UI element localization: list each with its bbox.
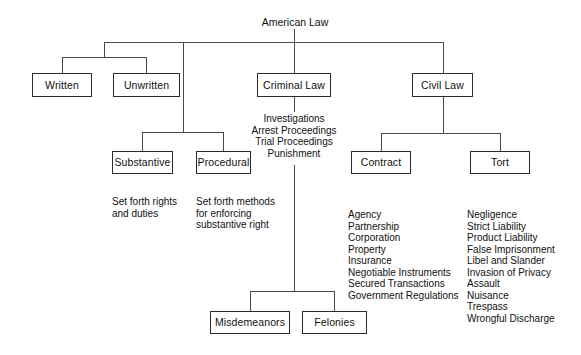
node-felonies[interactable]: Felonies — [302, 311, 367, 334]
substantive-description: Set forth rights and duties — [112, 196, 192, 219]
org-chart-diagram: American Law Written Unwritten Criminal … — [0, 0, 581, 355]
tort-list-item: Wrongful Discharge — [467, 313, 555, 325]
connector-written-group-bus — [62, 57, 147, 58]
node-misdemeanors[interactable]: Misdemeanors — [210, 311, 290, 334]
node-written[interactable]: Written — [32, 73, 92, 97]
connector-to-felonies — [334, 291, 335, 311]
contract-list-item: Corporation — [348, 232, 459, 244]
tort-subtopics-list: NegligenceStrict LiabilityProduct Liabil… — [467, 209, 555, 324]
tort-list-item: Assault — [467, 278, 555, 290]
node-unwritten[interactable]: Unwritten — [113, 73, 180, 97]
connector-to-tort — [500, 133, 501, 151]
node-civil-law[interactable]: Civil Law — [412, 73, 473, 97]
root-node-american-law: American Law — [245, 16, 345, 28]
tort-list-item: Product Liability — [467, 232, 555, 244]
contract-list-item: Partnership — [348, 221, 459, 233]
connector-bus-to-civil-law — [443, 42, 444, 73]
connector-root-stem — [294, 29, 295, 43]
connector-to-written — [62, 57, 63, 73]
connector-bus-to-written-group — [104, 42, 105, 57]
node-criminal-law[interactable]: Criminal Law — [257, 73, 331, 97]
contract-list-item: Property — [348, 244, 459, 256]
tort-list-item: Trespass — [467, 301, 555, 313]
tort-list-item: Libel and Slander — [467, 255, 555, 267]
connector-to-misdemeanors — [250, 291, 251, 311]
contract-list-item: Negotiable Instruments — [348, 267, 459, 279]
tort-list-item: Negligence — [467, 209, 555, 221]
connector-to-unwritten — [146, 57, 147, 73]
contract-list-item: Insurance — [348, 255, 459, 267]
contract-list-item: Secured Transactions — [348, 278, 459, 290]
connector-criminal-law-to-offenses — [294, 165, 295, 291]
tort-list-item: Nuisance — [467, 290, 555, 302]
connector-offenses-bus — [250, 291, 335, 292]
connector-to-contract — [381, 133, 382, 151]
tort-list-item: Invasion of Privacy — [467, 267, 555, 279]
tort-list-item: False Imprisonment — [467, 244, 555, 256]
connector-civil-law-stem — [443, 97, 444, 133]
tort-list-item: Strict Liability — [467, 221, 555, 233]
contract-subtopics-list: AgencyPartnershipCorporationPropertyInsu… — [348, 209, 459, 301]
criminal-process-steps: Investigations Arrest Proceedings Trial … — [224, 113, 364, 159]
node-tort[interactable]: Tort — [470, 151, 530, 174]
connector-to-substantive — [142, 132, 143, 151]
procedural-description: Set forth methods for enforcing substant… — [196, 196, 282, 231]
connector-contract-tort-bus — [381, 133, 500, 134]
contract-list-item: Agency — [348, 209, 459, 221]
connector-criminal-law-to-process — [294, 97, 295, 112]
node-substantive[interactable]: Substantive — [112, 151, 173, 174]
connector-subproc-bus — [142, 132, 224, 133]
node-contract[interactable]: Contract — [351, 151, 411, 174]
contract-list-item: Government Regulations — [348, 290, 459, 302]
connector-main-bus — [104, 42, 444, 43]
connector-bus-to-subproc-group — [183, 42, 184, 132]
connector-bus-to-criminal-law — [294, 42, 295, 73]
